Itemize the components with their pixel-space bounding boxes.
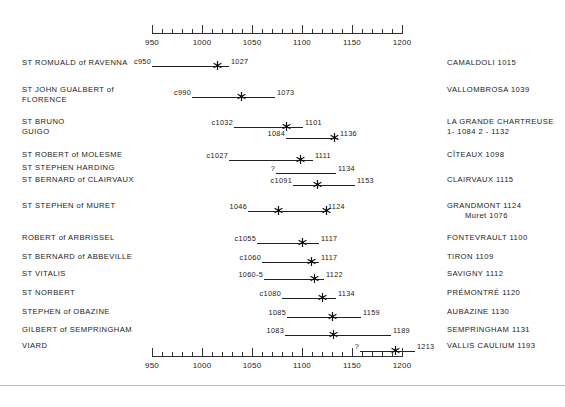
foundation-star-icon xyxy=(317,292,328,303)
major-tick xyxy=(152,25,153,34)
bar-end-label: 1101 xyxy=(303,118,322,127)
axis-top-line xyxy=(152,33,402,34)
foundation-star-icon xyxy=(297,237,308,248)
minor-tick xyxy=(322,29,323,33)
foundation-star-icon xyxy=(236,91,247,102)
bar-end-label: 1213 xyxy=(415,342,434,351)
bar-start-label: 1084 xyxy=(268,129,286,138)
bar-end-label: 1136 xyxy=(338,129,357,138)
timeline-bar-group: c10551117 xyxy=(0,235,565,247)
timeline-bar xyxy=(282,298,336,299)
axis-tick-label: 1000 xyxy=(193,361,212,370)
minor-tick xyxy=(272,352,273,356)
foundation-star-icon xyxy=(306,256,317,267)
timeline-bar xyxy=(192,97,275,98)
minor-tick xyxy=(172,29,173,33)
axis-tick-label: 1050 xyxy=(243,38,262,47)
foundation-star-icon xyxy=(273,205,284,216)
minor-tick xyxy=(292,352,293,356)
minor-tick xyxy=(282,352,283,356)
timeline-bar xyxy=(234,127,303,128)
bottom-divider xyxy=(0,385,565,386)
bar-end-label: 1153 xyxy=(355,176,374,185)
bar-start-label: c1032 xyxy=(212,118,234,127)
timeline-bar xyxy=(248,211,326,212)
axis-tick-label: 1100 xyxy=(293,361,311,370)
minor-tick xyxy=(382,352,383,356)
bar-start-label: c1055 xyxy=(235,234,257,243)
minor-tick xyxy=(162,29,163,33)
timeline-bar xyxy=(276,173,336,174)
timeline-bar-group: 1060-51122 xyxy=(0,271,565,283)
minor-tick xyxy=(242,29,243,33)
bar-start-label: c1080 xyxy=(260,289,282,298)
foundation-star-icon xyxy=(329,132,340,143)
timeline-bar xyxy=(257,243,319,244)
timeline-chart-page: 95010001050110011501200 ST ROMUALD of RA… xyxy=(0,0,565,407)
foundation-star-icon xyxy=(212,60,223,71)
axis-tick-label: 950 xyxy=(145,38,159,47)
bar-end-label: 1134 xyxy=(336,164,355,173)
bar-start-label: c1027 xyxy=(207,151,229,160)
timeline-bar xyxy=(293,185,355,186)
axis-tick-label: 1000 xyxy=(193,38,212,47)
minor-tick xyxy=(392,29,393,33)
major-tick xyxy=(202,25,203,34)
timeline-bar-group: c10601117 xyxy=(0,254,565,266)
axis-tick-label: 1150 xyxy=(343,38,361,47)
bar-end-label: 1122 xyxy=(324,270,343,279)
minor-tick xyxy=(332,29,333,33)
axis-tick-label: 1200 xyxy=(393,361,412,370)
minor-tick xyxy=(212,352,213,356)
bar-end-label: 1073 xyxy=(275,88,294,97)
timeline-bar-group: c9901073 xyxy=(0,89,565,101)
bar-start-label: c1060 xyxy=(240,253,262,262)
major-tick xyxy=(152,348,153,357)
minor-tick xyxy=(362,29,363,33)
major-tick xyxy=(202,348,203,357)
minor-tick xyxy=(212,29,213,33)
minor-tick xyxy=(262,352,263,356)
minor-tick xyxy=(222,352,223,356)
major-tick xyxy=(352,348,353,357)
minor-tick xyxy=(232,29,233,33)
foundation-star-icon xyxy=(327,311,338,322)
minor-tick xyxy=(292,29,293,33)
axis-tick-label: 1200 xyxy=(393,38,412,47)
bar-end-label: 1189 xyxy=(391,326,410,335)
timeline-bar-group: c10801134 xyxy=(0,290,565,302)
minor-tick xyxy=(182,352,183,356)
bar-start-label: ? xyxy=(271,164,276,173)
minor-tick xyxy=(272,29,273,33)
bar-start-label: 1083 xyxy=(267,326,285,335)
foundation-star-icon xyxy=(321,205,332,216)
timeline-bar-group: c10911153 xyxy=(0,177,565,189)
major-tick xyxy=(302,25,303,34)
major-tick xyxy=(352,25,353,34)
bar-start-label: c990 xyxy=(174,88,192,97)
bar-start-label: ? xyxy=(355,342,360,351)
major-tick xyxy=(252,348,253,357)
axis-bottom: 95010001050110011501200 xyxy=(0,356,565,382)
axis-tick-label: 950 xyxy=(145,361,159,370)
minor-tick xyxy=(242,352,243,356)
minor-tick xyxy=(182,29,183,33)
axis-tick-label: 1150 xyxy=(343,361,361,370)
minor-tick xyxy=(192,29,193,33)
minor-tick xyxy=(372,352,373,356)
axis-bottom-line xyxy=(152,356,402,357)
bar-start-label: 1046 xyxy=(230,202,248,211)
minor-tick xyxy=(192,352,193,356)
major-tick xyxy=(402,25,403,34)
axis-tick-label: 1100 xyxy=(293,38,311,47)
minor-tick xyxy=(322,352,323,356)
major-tick xyxy=(252,25,253,34)
bar-end-label: 1134 xyxy=(336,289,355,298)
axis-tick-label: 1050 xyxy=(243,361,262,370)
bar-end-label: 1117 xyxy=(319,253,337,262)
minor-tick xyxy=(222,29,223,33)
minor-tick xyxy=(362,352,363,356)
foundation-star-icon xyxy=(309,273,320,284)
minor-tick xyxy=(262,29,263,33)
foundation-star-icon xyxy=(328,329,339,340)
